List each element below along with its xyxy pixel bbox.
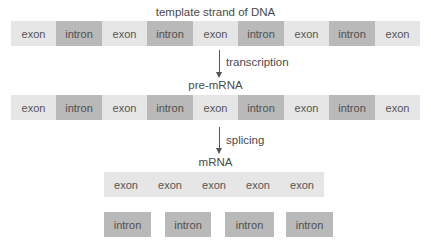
pre-mrna-exon-1: exon: [11, 95, 56, 120]
pre-mrna-intron-1: intron: [56, 95, 102, 120]
transcription-label: transcription: [226, 57, 289, 69]
removed-intron-4: intron: [286, 212, 333, 237]
mrna-exon-3: exon: [192, 172, 236, 197]
pre-mrna-exon-5: exon: [375, 95, 420, 120]
dna-strand: exon intron exon intron exon intron exon…: [11, 21, 420, 46]
mrna-title: mRNA: [0, 157, 431, 169]
splicing-label: splicing: [226, 135, 264, 147]
pre-mrna-exon-2: exon: [102, 95, 147, 120]
dna-title: template strand of DNA: [0, 7, 431, 19]
dna-exon-4: exon: [284, 21, 329, 46]
dna-exon-1: exon: [11, 21, 56, 46]
mrna-strand: exon exon exon exon exon: [104, 172, 324, 197]
dna-exon-5: exon: [375, 21, 420, 46]
dna-exon-3: exon: [193, 21, 238, 46]
pre-mrna-strand: exon intron exon intron exon intron exon…: [11, 95, 420, 120]
dna-intron-3: intron: [238, 21, 284, 46]
pre-mrna-intron-2: intron: [147, 95, 193, 120]
splicing-arrow-icon: [219, 127, 220, 153]
pre-mrna-intron-3: intron: [238, 95, 284, 120]
dna-intron-1: intron: [56, 21, 102, 46]
pre-mrna-exon-3: exon: [193, 95, 238, 120]
removed-intron-2: intron: [165, 212, 211, 237]
pre-mrna-exon-4: exon: [284, 95, 329, 120]
removed-intron-1: intron: [104, 212, 151, 237]
mrna-exon-5: exon: [280, 172, 324, 197]
mrna-exon-4: exon: [236, 172, 280, 197]
mrna-exon-1: exon: [104, 172, 148, 197]
dna-exon-2: exon: [102, 21, 147, 46]
pre-mrna-title: pre-mRNA: [0, 80, 431, 92]
mrna-exon-2: exon: [148, 172, 192, 197]
dna-intron-4: intron: [329, 21, 375, 46]
transcription-arrow-icon: [219, 50, 220, 77]
dna-intron-2: intron: [147, 21, 193, 46]
pre-mrna-intron-4: intron: [329, 95, 375, 120]
removed-intron-3: intron: [225, 212, 274, 237]
